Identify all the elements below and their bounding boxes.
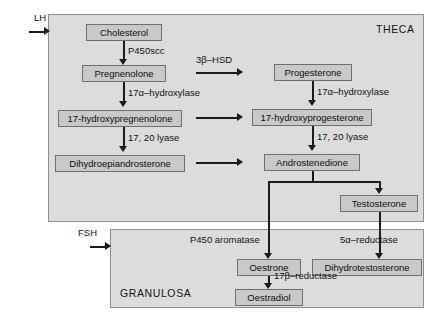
hormone-lh-arrow-shaft (29, 31, 45, 33)
node-progesterone[interactable]: Progesterone (274, 64, 352, 81)
node-dihydroepiandrosterone[interactable]: Dihydroepiandrosterone (55, 155, 185, 172)
enzyme-17a-hydroxylase-left: 17α–hydroxylase (128, 88, 200, 98)
edge-17ohprog-androstenedione-head (308, 145, 316, 151)
edge-progesterone-17ohprog-head (308, 100, 316, 106)
compartment-theca-label: THECA (376, 23, 415, 35)
node-oestradiol[interactable]: Oestradiol (235, 289, 303, 306)
hormone-fsh-label: FSH (78, 228, 97, 238)
edge-androstenedione-oestrone (268, 181, 270, 256)
node-17-hydroxyprogesterone[interactable]: 17-hydroxyprogesterone (252, 109, 372, 126)
enzyme-p450-aromatase: P450 aromatase (190, 235, 260, 245)
hormone-lh-arrow-head (44, 27, 50, 35)
enzyme-17b-reductase: 17β–reductase (274, 271, 337, 281)
hormone-lh-label: LH (34, 13, 46, 23)
node-testosterone[interactable]: Testosterone (340, 195, 418, 212)
edge-17ohpreg-17ohprog (196, 117, 238, 119)
compartment-granulosa-label: GRANULOSA (120, 287, 191, 299)
node-cholesterol[interactable]: Cholesterol (86, 24, 162, 41)
edge-dhea-androstenedione-head (237, 158, 243, 166)
edge-pregnenolone-17ohpreg-head (119, 101, 127, 107)
edge-17ohpreg-17ohprog-head (237, 113, 243, 121)
edge-androstenedione-testosterone-head (375, 188, 383, 194)
edge-17ohpreg-dhea-head (119, 146, 127, 152)
edge-pregnenolone-progesterone-head (237, 68, 243, 76)
enzyme-17a-hydroxylase-right: 17α–hydroxylase (317, 87, 389, 97)
enzyme-3b-hsd: 3β–HSD (196, 55, 232, 65)
node-17-hydroxypregnenolone[interactable]: 17-hydroxypregnenolone (58, 110, 182, 127)
node-pregnenolone[interactable]: Pregnenolone (82, 65, 166, 82)
enzyme-17-20-lyase-right: 17, 20 lyase (317, 132, 368, 142)
edge-androstenedione-branch-bus (268, 181, 380, 183)
steroidogenesis-diagram: THECA GRANULOSA LH FSH Cholesterol P450s… (0, 0, 438, 322)
hormone-fsh-arrow-shaft (90, 246, 106, 248)
hormone-fsh-arrow-head (105, 242, 111, 250)
enzyme-17-20-lyase-left: 17, 20 lyase (128, 133, 179, 143)
enzyme-5a-reductase: 5α–reductase (340, 235, 398, 245)
node-androstenedione[interactable]: Androstenedione (264, 154, 360, 171)
enzyme-p450scc: P450scc (128, 46, 164, 56)
edge-dhea-androstenedione (196, 162, 238, 164)
edge-pregnenolone-progesterone (196, 72, 238, 74)
